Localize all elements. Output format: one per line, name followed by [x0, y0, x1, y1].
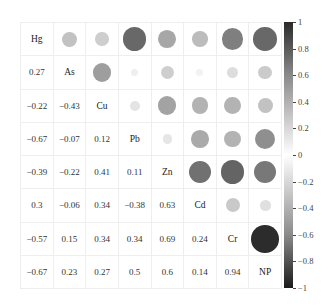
correlation-circle — [123, 27, 146, 50]
correlation-value: −0.07 — [59, 134, 80, 144]
correlation-circle-cell — [118, 55, 152, 89]
correlation-circle — [93, 63, 112, 82]
colorbar-tick-mark — [293, 49, 296, 50]
correlation-value: −0.38 — [124, 200, 145, 210]
colorbar-tick-mark — [293, 22, 296, 23]
correlation-circle — [224, 97, 241, 114]
correlation-circle — [258, 66, 272, 80]
correlation-circle-cell — [183, 89, 217, 123]
correlation-value: 0.11 — [127, 167, 142, 177]
correlation-value: 0.41 — [94, 167, 110, 177]
correlation-circle-cell — [216, 155, 250, 189]
correlation-value: 0.63 — [159, 200, 175, 210]
correlation-value: 0.27 — [29, 67, 45, 77]
variable-name: Cd — [194, 200, 205, 210]
variable-name: As — [64, 67, 75, 77]
colorbar — [284, 22, 293, 288]
correlation-value-cell: 0.12 — [85, 122, 119, 156]
correlation-value-cell: 0.69 — [151, 222, 185, 256]
correlation-value: −0.67 — [26, 134, 47, 144]
correlation-circle-cell — [183, 55, 217, 89]
colorbar-tick-mark — [293, 208, 296, 209]
correlation-circle-cell — [183, 155, 217, 189]
correlation-value: −0.06 — [59, 200, 80, 210]
colorbar-tick-label: −1 — [298, 283, 307, 293]
correlation-value-cell: 0.15 — [53, 222, 87, 256]
correlation-circle-cell — [151, 55, 185, 89]
variable-name: Pb — [130, 134, 140, 144]
correlation-value-cell: 0.24 — [183, 222, 217, 256]
correlation-circle — [221, 160, 245, 184]
correlation-value-cell: −0.06 — [53, 188, 87, 222]
correlation-value: 0.24 — [192, 234, 208, 244]
correlation-value-cell: −0.67 — [20, 255, 54, 289]
correlation-circle — [222, 28, 244, 50]
correlation-circle — [224, 131, 241, 148]
correlation-value-cell: −0.67 — [20, 122, 54, 156]
correlation-circle-cell — [118, 89, 152, 123]
correlation-circle-cell — [53, 22, 87, 56]
correlation-value: −0.22 — [26, 101, 47, 111]
correlation-circle — [131, 69, 139, 77]
correlation-value-cell: 0.6 — [151, 255, 185, 289]
colorbar-tick-mark — [293, 102, 296, 103]
colorbar-tick-label: −0.6 — [298, 230, 313, 240]
correlation-value: −0.39 — [26, 167, 47, 177]
correlation-circle — [258, 98, 273, 113]
correlation-value: −0.57 — [26, 234, 47, 244]
correlation-circle-cell — [248, 222, 282, 256]
correlation-value: 0.5 — [129, 267, 140, 277]
variable-label-as: As — [53, 55, 87, 89]
correlation-circle-cell — [85, 55, 119, 89]
correlation-circle — [62, 32, 77, 47]
colorbar-tick-mark — [293, 155, 296, 156]
colorbar-tick-mark — [293, 235, 296, 236]
correlation-value-cell: 0.3 — [20, 188, 54, 222]
colorbar-tick-label: 1 — [298, 17, 302, 27]
variable-name: Cr — [228, 234, 238, 244]
correlation-circle-cell — [216, 22, 250, 56]
correlation-value-cell: 0.34 — [118, 222, 152, 256]
variable-name: Zn — [162, 167, 173, 177]
correlation-circle-cell — [216, 122, 250, 156]
correlation-circle — [192, 31, 208, 47]
variable-name: Cu — [97, 101, 108, 111]
correlation-matrix: Hg0.27As−0.22−0.43Cu−0.67−0.070.12Pb−0.3… — [20, 22, 281, 288]
correlation-circle-cell — [151, 122, 185, 156]
correlation-value-cell: −0.07 — [53, 122, 87, 156]
correlation-circle — [260, 200, 271, 211]
correlation-circle — [255, 129, 275, 149]
correlation-circle-cell — [248, 22, 282, 56]
correlation-value-cell: 0.5 — [118, 255, 152, 289]
correlation-circle-cell — [183, 22, 217, 56]
correlation-value: 0.6 — [162, 267, 173, 277]
correlation-value: 0.14 — [192, 267, 208, 277]
colorbar-tick-mark — [293, 261, 296, 262]
colorbar-tick-label: −0.8 — [298, 256, 313, 266]
correlation-circle-cell — [151, 22, 185, 56]
variable-label-cr: Cr — [216, 222, 250, 256]
correlation-value-cell: −0.22 — [53, 155, 87, 189]
correlation-circle — [226, 198, 240, 212]
correlation-circle — [251, 225, 279, 253]
variable-label-pb: Pb — [118, 122, 152, 156]
correlation-value: −0.67 — [26, 267, 47, 277]
correlation-value: 0.3 — [31, 200, 42, 210]
colorbar-tick-label: 0.6 — [298, 70, 309, 80]
correlation-value: 0.27 — [94, 267, 110, 277]
colorbar-tick-mark — [293, 128, 296, 129]
correlation-circle — [192, 97, 209, 114]
correlation-value: 0.34 — [94, 234, 110, 244]
variable-label-cd: Cd — [183, 188, 217, 222]
variable-name: Hg — [31, 34, 43, 44]
correlation-circle-cell — [118, 22, 152, 56]
colorbar-tick-label: 0.4 — [298, 97, 309, 107]
variable-name: NP — [259, 267, 271, 277]
variable-label-cu: Cu — [85, 89, 119, 123]
variable-label-zn: Zn — [151, 155, 185, 189]
colorbar-tick-mark — [293, 75, 296, 76]
colorbar-tick-label: 0 — [298, 150, 302, 160]
correlation-value-cell: −0.43 — [53, 89, 87, 123]
correlation-value-cell: 0.11 — [118, 155, 152, 189]
correlation-value-cell: 0.41 — [85, 155, 119, 189]
